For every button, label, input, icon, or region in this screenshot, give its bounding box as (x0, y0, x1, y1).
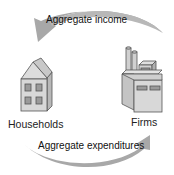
aggregate-expenditures-label: Aggregate expenditures (38, 140, 144, 151)
firms-label: Firms (131, 116, 157, 128)
households-label: Households (8, 118, 63, 130)
aggregate-income-label: Aggregate income (46, 14, 127, 25)
house-icon (21, 58, 52, 111)
circular-flow-diagram: Aggregate income Households Firms Aggreg… (0, 0, 174, 175)
factory-icon (122, 47, 162, 112)
